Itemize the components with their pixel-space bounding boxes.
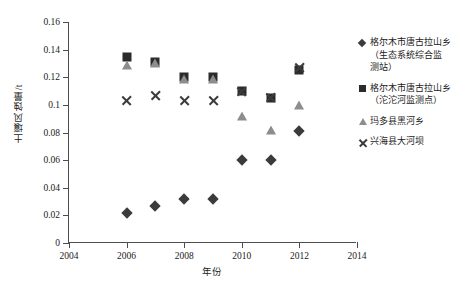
y-tick-label: 0.1 bbox=[48, 100, 60, 110]
x-tick-mark bbox=[184, 242, 185, 248]
data-point bbox=[179, 193, 190, 204]
legend-label: 格尔木市唐古拉山乡 （生态系统综合监 测站） bbox=[370, 36, 464, 74]
y-tick-mark bbox=[63, 77, 69, 78]
square-marker-icon bbox=[359, 85, 366, 92]
data-point bbox=[179, 74, 189, 83]
legend-entry[interactable]: 格尔木市唐古拉山乡 （沱沱河监测点） bbox=[358, 82, 464, 107]
y-tick-label: 0.16 bbox=[43, 17, 60, 27]
data-point bbox=[121, 95, 132, 106]
y-tick-label: 0.04 bbox=[43, 183, 60, 193]
x-tick-label: 2004 bbox=[60, 251, 79, 261]
triangle-marker-icon bbox=[359, 118, 367, 125]
data-point bbox=[208, 74, 218, 83]
legend-entry[interactable]: 玛多县黑河乡 bbox=[358, 115, 464, 128]
data-point bbox=[208, 95, 219, 106]
data-point bbox=[122, 60, 132, 69]
x-tick-label: 2014 bbox=[348, 251, 367, 261]
plot-area: 00.020.040.060.080.10.120.140.16 2004200… bbox=[68, 22, 356, 243]
y-tick-label: 0.12 bbox=[43, 72, 60, 82]
data-point bbox=[207, 193, 218, 204]
legend-label: 兴海县大河坝 bbox=[370, 135, 464, 148]
x-tick-label: 2010 bbox=[232, 251, 251, 261]
soil-wind-erosion-scatter-chart: 土壤风蚀量/t 00.020.040.060.080.10.120.140.16… bbox=[0, 0, 465, 299]
data-point bbox=[265, 92, 276, 103]
data-point bbox=[150, 90, 161, 101]
y-tick-label: 0.06 bbox=[43, 155, 60, 165]
y-axis-title: 土壤风蚀量/t bbox=[14, 84, 28, 143]
x-tick-mark bbox=[242, 242, 243, 248]
cross-marker-icon bbox=[358, 138, 367, 147]
x-tick-mark bbox=[357, 242, 358, 248]
data-point bbox=[236, 154, 247, 165]
data-point bbox=[121, 207, 132, 218]
legend-entry[interactable]: 兴海县大河坝 bbox=[358, 135, 464, 148]
x-tick-label: 2006 bbox=[117, 251, 136, 261]
data-point bbox=[294, 100, 304, 109]
diamond-marker-icon bbox=[358, 39, 366, 47]
x-tick-mark bbox=[299, 242, 300, 248]
x-tick-mark bbox=[127, 242, 128, 248]
x-axis-title: 年份 bbox=[68, 264, 356, 278]
data-point bbox=[266, 125, 276, 134]
chart-legend: 格尔木市唐古拉山乡 （生态系统综合监 测站）格尔木市唐古拉山乡 （沱沱河监测点）… bbox=[358, 36, 464, 156]
y-tick-mark bbox=[63, 22, 69, 23]
x-tick-label: 2008 bbox=[175, 251, 194, 261]
data-point bbox=[265, 154, 276, 165]
data-point bbox=[179, 95, 190, 106]
x-tick-mark bbox=[69, 242, 70, 248]
x-tick-label: 2012 bbox=[290, 251, 309, 261]
y-tick-mark bbox=[63, 50, 69, 51]
y-tick-label: 0.02 bbox=[43, 210, 60, 220]
data-point bbox=[294, 125, 305, 136]
data-point bbox=[294, 62, 305, 73]
y-tick-mark bbox=[63, 188, 69, 189]
data-point bbox=[237, 111, 247, 120]
legend-label: 玛多县黑河乡 bbox=[370, 115, 464, 128]
y-tick-mark bbox=[63, 105, 69, 106]
y-tick-label: 0.08 bbox=[43, 128, 60, 138]
y-tick-mark bbox=[63, 160, 69, 161]
y-tick-label: 0.14 bbox=[43, 45, 60, 55]
y-tick-mark bbox=[63, 215, 69, 216]
legend-entry[interactable]: 格尔木市唐古拉山乡 （生态系统综合监 测站） bbox=[358, 36, 464, 74]
data-point bbox=[150, 59, 160, 68]
data-point bbox=[236, 86, 247, 97]
y-tick-mark bbox=[63, 133, 69, 134]
y-tick-label: 0 bbox=[55, 238, 60, 248]
data-point bbox=[150, 200, 161, 211]
legend-label: 格尔木市唐古拉山乡 （沱沱河监测点） bbox=[370, 82, 464, 107]
